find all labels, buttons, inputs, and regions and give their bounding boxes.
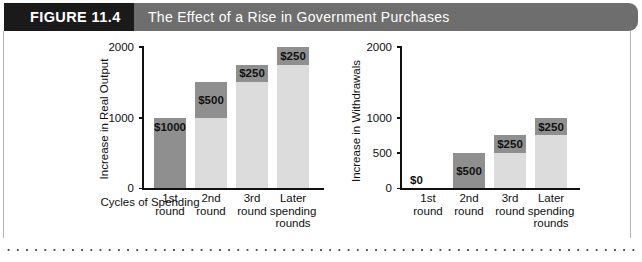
bar-value-label: $1000 [154, 121, 186, 133]
bar-right-later: $250 Later spending rounds [535, 118, 567, 189]
y-tick-mark [139, 117, 144, 119]
bar-base-segment [236, 82, 268, 188]
plot-area-right: 0 500 1000 2000 $0 1st round $500 [400, 47, 580, 190]
y-tick-label: 2000 [366, 39, 392, 55]
plot-area-left: 0 1000 2000 $1000 1st round $500 [142, 47, 324, 190]
y-axis-line-right [400, 47, 402, 190]
bar-increment-segment: $250 [494, 135, 526, 153]
y-tick-label: 500 [373, 145, 392, 161]
y-tick-label: 0 [128, 180, 134, 196]
figure-title: The Effect of a Rise in Government Purch… [134, 3, 638, 31]
x-axis-title: Cycles of Spending [0, 196, 300, 208]
x-axis-line-left [142, 188, 324, 190]
y-tick-mark [139, 46, 144, 48]
chart-panel-withdrawals: Increase in Withdrawals 0 500 1000 2000 [350, 36, 600, 246]
bar-increment-segment: $1000 [154, 118, 186, 189]
bar-left-3rd: $250 3rd round [236, 65, 268, 189]
y-tick-label: 2000 [108, 39, 134, 55]
figure-header-bar: FIGURE 11.4 The Effect of a Rise in Gove… [4, 3, 638, 31]
bar-base-segment [494, 153, 526, 188]
bar-value-label: $250 [538, 121, 564, 133]
bar-base-segment [277, 65, 309, 189]
y-axis-title-right: Increase in Withdrawals [350, 46, 366, 196]
y-tick-mark [397, 46, 402, 48]
figure-number-label: FIGURE 11.4 [4, 3, 134, 31]
frame-right-border [630, 31, 631, 238]
y-tick-mark [397, 152, 402, 154]
bar-increment-segment: $500 [453, 153, 485, 188]
bar-value-label: $250 [497, 138, 523, 150]
x-axis-line-right [400, 188, 580, 190]
y-tick-mark [139, 188, 144, 190]
bar-base-segment [195, 118, 227, 189]
y-tick-label: 0 [386, 180, 392, 196]
chart-panel-real-output: Increase in Real Output 0 1000 2000 $100… [96, 36, 336, 246]
y-tick-label: 1000 [108, 110, 134, 126]
x-tick-label-right-later: Later spending rounds [521, 192, 581, 230]
bar-value-label: $250 [239, 67, 265, 79]
bar-increment-segment: $250 [535, 118, 567, 136]
bar-base-segment [535, 135, 567, 188]
bar-right-3rd: $250 3rd round [494, 135, 526, 188]
bar-increment-segment: $500 [195, 82, 227, 117]
bar-value-label: $250 [280, 50, 306, 62]
bar-left-later: $250 Later spending rounds [277, 47, 309, 188]
bar-left-2nd: $500 2nd round [195, 82, 227, 188]
bar-increment-segment: $250 [277, 47, 309, 65]
bar-left-1st: $1000 1st round [154, 118, 186, 189]
y-tick-mark [397, 188, 402, 190]
bar-right-2nd: $500 2nd round [453, 153, 485, 188]
figure-container: FIGURE 11.4 The Effect of a Rise in Gove… [0, 0, 642, 262]
y-tick-mark [397, 117, 402, 119]
bar-increment-segment: $250 [236, 65, 268, 83]
bar-value-label: $500 [456, 165, 482, 177]
frame-bottom-dotted-border [4, 248, 638, 252]
bar-value-label: $500 [198, 94, 224, 106]
y-tick-label: 1000 [366, 110, 392, 126]
y-axis-line-left [142, 47, 144, 190]
bar-value-label-zero: $0 [410, 174, 423, 186]
